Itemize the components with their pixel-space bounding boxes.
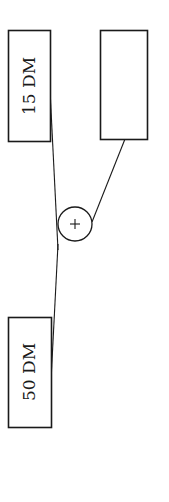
box-50-dm-label: 50 DM xyxy=(19,343,39,401)
sum-diagram: 15 DM 50 DM xyxy=(0,0,169,502)
connector-top-right xyxy=(92,139,125,222)
box-15-dm-label: 15 DM xyxy=(19,57,39,115)
plus-node xyxy=(58,207,92,241)
box-empty xyxy=(101,31,148,140)
box-15-dm: 15 DM xyxy=(9,31,51,142)
box-50-dm: 50 DM xyxy=(9,318,52,428)
